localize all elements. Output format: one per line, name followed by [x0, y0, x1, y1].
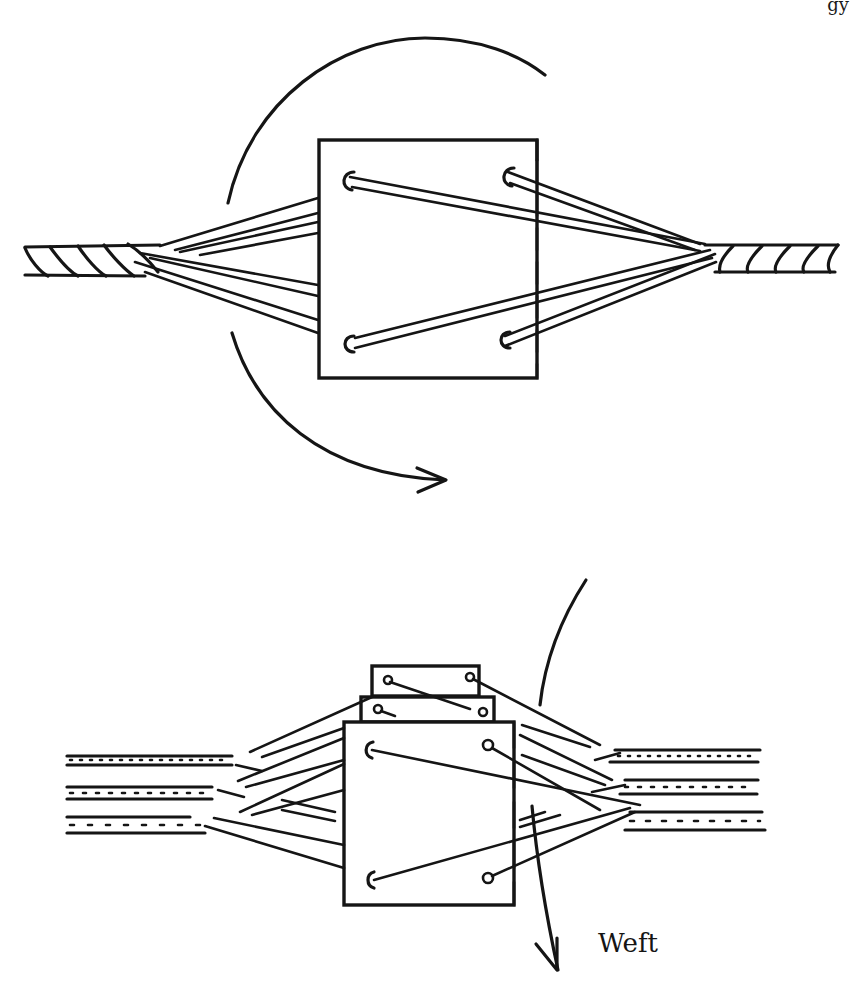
bottom-panel [67, 580, 765, 970]
left-strands [135, 198, 318, 333]
top-panel [25, 38, 838, 492]
weft-label: Weft [598, 928, 658, 958]
tablet-card-back [372, 666, 479, 696]
right-strands-bottom [520, 725, 625, 827]
left-cords [67, 756, 232, 833]
weaving-diagram [0, 0, 863, 1000]
turning-arc [540, 580, 586, 705]
left-cord [25, 244, 160, 276]
right-cord [705, 245, 838, 272]
right-cords [610, 750, 765, 830]
